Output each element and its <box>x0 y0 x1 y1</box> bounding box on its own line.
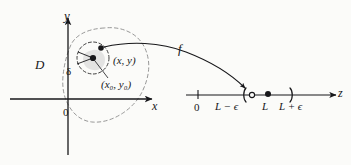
region-d-label: D <box>35 58 44 71</box>
point-x0-y0-label: (x₀, y₀) <box>101 79 131 90</box>
limit-point-l-marker <box>265 91 271 97</box>
delta-label: δ <box>66 66 71 77</box>
open-circle-image-point <box>249 92 254 97</box>
point-x0-y0-marker <box>90 55 96 61</box>
limit-definition-figure: y x 0 D δ (x, y) (x₀, y₀) f z 0 L − ϵ L … <box>0 0 351 165</box>
l-minus-epsilon-label: L − ϵ <box>215 101 238 112</box>
point-x-y-marker <box>98 45 104 51</box>
origin-label: 0 <box>63 107 69 118</box>
l-label: L <box>262 101 268 112</box>
l-plus-epsilon-label: L + ϵ <box>279 101 302 112</box>
z-origin-label: 0 <box>194 102 200 113</box>
function-f-label: f <box>178 42 182 55</box>
z-number-line <box>186 90 336 99</box>
point-x-y-label: (x, y) <box>113 55 136 66</box>
y-axis-label: y <box>64 9 70 22</box>
x-axis-label: x <box>152 100 157 112</box>
z-axis-label: z <box>338 87 343 99</box>
